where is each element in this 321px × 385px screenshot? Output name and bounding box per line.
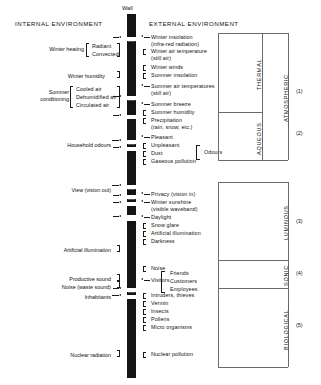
external-item-label: Insects bbox=[151, 308, 169, 315]
odours-label: Odours bbox=[204, 149, 222, 156]
wall-line bbox=[128, 189, 135, 190]
external-hook-icon bbox=[143, 65, 146, 71]
diagram-canvas: INTERNAL ENVIRONMENT EXTERNAL ENVIRONMEN… bbox=[0, 0, 321, 385]
internal-label-nuclear-radiation: Nuclear radiation bbox=[35, 352, 111, 359]
internal-item-dehumidified-air: Dehumidified air bbox=[76, 94, 117, 101]
arrow-left bbox=[119, 194, 121, 196]
wall-line bbox=[128, 199, 135, 200]
external-hook-icon bbox=[143, 223, 146, 229]
wall-gap bbox=[127, 147, 136, 151]
hook-summer-conditioning bbox=[117, 86, 120, 108]
hook-artificial-illumination bbox=[117, 245, 120, 252]
internal-label-summer-conditioning-l2: conditioning bbox=[14, 96, 69, 103]
arrow-inward-icon bbox=[141, 200, 143, 202]
external-item-label: Daylight bbox=[151, 214, 171, 221]
category-rule-luminous-bottom bbox=[218, 260, 288, 261]
arrow-inward-icon bbox=[141, 192, 143, 194]
internal-label-household-odours: Household odours bbox=[25, 142, 111, 149]
header-internal-environment: INTERNAL ENVIRONMENT bbox=[15, 20, 103, 27]
external-hook-icon bbox=[143, 352, 146, 358]
internal-label-winter-heating: Winter heating bbox=[18, 46, 84, 53]
category-rule-top-thermal bbox=[218, 33, 262, 34]
leader bbox=[112, 140, 119, 141]
external-hook-icon bbox=[143, 118, 146, 124]
arrow-left bbox=[119, 36, 121, 38]
category-label-luminous: LUMINOUS bbox=[283, 205, 289, 240]
category-label-thermal: THERMAL bbox=[256, 59, 262, 90]
wall-caption: Wall bbox=[122, 5, 133, 11]
arrow-left bbox=[119, 114, 121, 116]
internal-label-summer-conditioning-l1: Summer bbox=[14, 89, 69, 96]
external-item-label: (rain, snow, etc.) bbox=[151, 124, 193, 131]
category-rule-biological-bottom bbox=[218, 367, 288, 368]
hook-winter-heating bbox=[117, 43, 120, 57]
arrow-left bbox=[119, 146, 121, 148]
external-item-label: Pleasant bbox=[151, 134, 173, 141]
arrow-inward-icon bbox=[141, 215, 143, 217]
internal-label-productive-sound: Productive sound bbox=[25, 276, 111, 283]
wall-gap bbox=[127, 202, 136, 206]
internal-item-cooled-air: Cooled air bbox=[76, 86, 102, 93]
leader bbox=[112, 295, 119, 296]
hook-winter-humidity bbox=[117, 71, 120, 78]
leader bbox=[112, 185, 119, 186]
category-left-edge-thermal bbox=[218, 33, 219, 160]
category-number-2: (2) bbox=[296, 130, 303, 136]
category-label-sonic: SONIC bbox=[283, 265, 289, 286]
external-item-label: (still air) bbox=[151, 55, 171, 62]
external-item-label: Nuclear pollution bbox=[151, 351, 193, 358]
external-leader bbox=[144, 194, 150, 195]
external-hook-icon bbox=[143, 325, 146, 331]
external-leader bbox=[144, 104, 150, 105]
brace-odours bbox=[196, 145, 200, 160]
category-rule-aqueous-bottom bbox=[218, 160, 262, 161]
category-left-edge-luminous bbox=[218, 182, 219, 260]
external-item-label: Dust bbox=[151, 150, 163, 157]
arrow-left bbox=[119, 294, 121, 296]
external-item-label: Micro organisms bbox=[151, 324, 192, 331]
category-rule-thermal-aqueous bbox=[218, 112, 262, 113]
external-hook-icon bbox=[143, 293, 146, 299]
external-item-label: Winter insolation bbox=[151, 34, 193, 41]
external-leader bbox=[144, 37, 150, 38]
external-item-label: Snow glare bbox=[151, 222, 179, 229]
external-item-label: Summer breeze bbox=[151, 101, 191, 108]
external-hook-icon bbox=[143, 143, 146, 149]
visitors-item-employees: Employees bbox=[170, 286, 198, 293]
arrow-left bbox=[119, 201, 121, 203]
external-item-label: Darkness bbox=[151, 238, 175, 245]
leader bbox=[113, 147, 119, 148]
external-leader bbox=[144, 86, 150, 87]
external-item-label: Unpleasant bbox=[151, 142, 179, 149]
leader bbox=[113, 37, 119, 38]
category-left-edge-biological bbox=[218, 288, 219, 367]
external-hook-icon bbox=[143, 317, 146, 323]
category-rule-luminous-top bbox=[218, 182, 288, 183]
leader bbox=[113, 115, 119, 116]
external-leader bbox=[144, 217, 150, 218]
external-item-label: Summer humidity bbox=[151, 109, 195, 116]
brace-winter-heating bbox=[86, 43, 89, 57]
wall-line bbox=[128, 41, 135, 42]
external-item-label: (visible waveband) bbox=[151, 206, 198, 213]
leader bbox=[113, 202, 119, 203]
external-leader bbox=[144, 137, 150, 138]
wall-gap bbox=[127, 295, 136, 299]
external-item-label: Precipitation bbox=[151, 117, 182, 124]
category-left-edge-sonic bbox=[218, 260, 219, 288]
category-rule-atmospheric-top bbox=[262, 33, 288, 34]
external-item-label: Winter sunshine bbox=[151, 199, 191, 206]
category-rule-sonic-bottom bbox=[218, 288, 288, 289]
arrow-left bbox=[119, 184, 121, 186]
external-item-label: Intruders, thieves bbox=[151, 292, 194, 299]
category-label-biological: BIOLOGICAL bbox=[283, 310, 289, 350]
wall-gap bbox=[127, 215, 136, 221]
visitors-item-friends: Friends bbox=[170, 270, 189, 277]
internal-label-view: View (vision out) bbox=[35, 187, 111, 194]
external-hook-icon bbox=[143, 266, 146, 272]
category-label-atmospheric: ATMOSPHERIC bbox=[283, 74, 289, 122]
leader bbox=[113, 195, 119, 196]
external-item-label: Summer air temperatures bbox=[151, 83, 215, 90]
external-item-label: Vermin bbox=[151, 300, 168, 307]
wall-line bbox=[128, 144, 135, 145]
